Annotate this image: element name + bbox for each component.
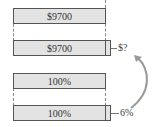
curved-arrow-icon — [0, 0, 154, 127]
